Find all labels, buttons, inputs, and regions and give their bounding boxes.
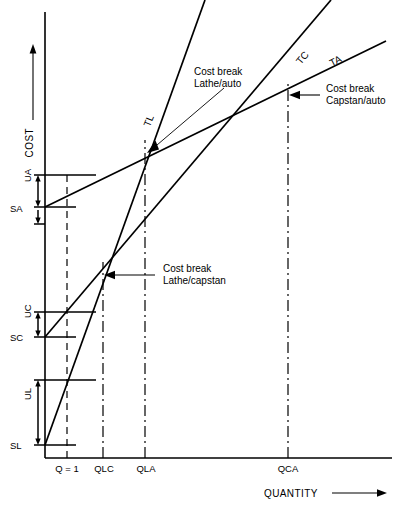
callout-capstan-auto-line2: Capstan/auto — [326, 95, 386, 106]
ua-arrow-up — [35, 175, 40, 182]
sc-label: SC — [10, 332, 23, 343]
x-tick-label-qlc: QLC — [94, 463, 114, 474]
uc-arrow-up — [35, 312, 40, 319]
y-axis-label-group: COST — [24, 44, 36, 157]
line-label-ta: TA — [328, 53, 344, 68]
y-axis-arrow-head — [30, 44, 37, 54]
uc-label: UC — [22, 304, 33, 318]
callout-lathe-auto-line2: Lathe/auto — [194, 78, 242, 89]
x-axis-label-group: QUANTITY — [264, 488, 387, 499]
line-label-tc: TC — [294, 49, 311, 66]
ul-label: UL — [22, 388, 33, 400]
ua-arrow-down — [35, 201, 40, 208]
callout-lathe-auto: Cost break Lathe/auto — [147, 66, 243, 153]
marker-group-auto: UA SA — [10, 168, 96, 224]
x-tick-label-qla: QLA — [136, 463, 156, 474]
callout-lathe-capstan-line2: Lathe/capstan — [163, 275, 226, 286]
uc-arrow-down — [35, 331, 40, 338]
figure-canvas: COST QUANTITY TL TC TA UA — [0, 0, 400, 510]
x-axis-title: QUANTITY — [264, 488, 318, 499]
cost-break-even-chart: COST QUANTITY TL TC TA UA — [0, 0, 400, 510]
callout-capstan-auto-arrowhead — [289, 91, 300, 99]
ua-label: UA — [22, 168, 33, 182]
callout-lathe-auto-line1: Cost break — [194, 66, 243, 77]
callout-lathe-capstan: Cost break Lathe/capstan — [104, 263, 226, 286]
callout-capstan-auto: Cost break Capstan/auto — [289, 83, 386, 106]
callout-lathe-capstan-line1: Cost break — [163, 263, 212, 274]
cost-line-tl — [45, 0, 205, 445]
x-tick-label-q1: Q = 1 — [55, 463, 79, 474]
marker-group-lathe: UL SL — [10, 380, 96, 451]
callout-capstan-auto-line1: Cost break — [326, 83, 375, 94]
y-axis-title: COST — [24, 128, 35, 157]
sa-label: SA — [10, 203, 23, 214]
line-label-tl: TL — [141, 113, 156, 128]
ul-arrow-down — [35, 439, 40, 446]
x-tick-label-qca: QCA — [278, 463, 299, 474]
ul-arrow-up — [35, 380, 40, 387]
sa-arrow-down — [35, 218, 40, 225]
x-tick-labels: Q = 1 QLC QLA QCA — [55, 463, 299, 474]
x-axis-arrow-head — [377, 489, 387, 497]
sl-label: SL — [10, 440, 22, 451]
